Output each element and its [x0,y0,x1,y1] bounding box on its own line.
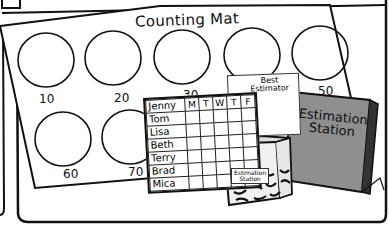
circle-label: 70 [128,165,143,179]
circle-label: 60 [63,167,78,181]
jar-label: Estimation Station [231,168,269,184]
certificate-title: Best Estimator [250,76,289,93]
circle-label: 10 [39,92,54,106]
circle-label: 50 [318,84,333,98]
counting-mat-title: Counting Mat [135,9,240,31]
circle-label: 20 [114,91,129,105]
